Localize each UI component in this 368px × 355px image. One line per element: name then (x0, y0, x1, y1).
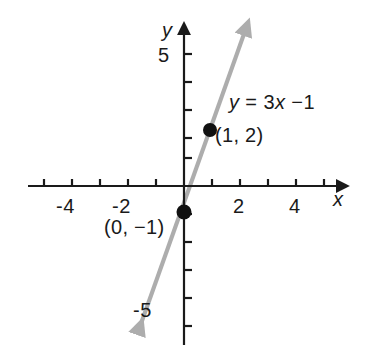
function-line-group (138, 33, 244, 332)
function-line (138, 33, 244, 332)
x-tick-label-4: 4 (289, 196, 301, 216)
y-tick-label-neg5: -5 (133, 300, 152, 320)
point-marker-0-neg1 (177, 205, 192, 220)
equation-relation: = 3 (239, 91, 275, 113)
y-axis-label: y (162, 20, 172, 40)
x-axis-label: x (333, 189, 343, 209)
x-tick-label-neg2: -2 (112, 196, 131, 216)
equation-lhs: y (229, 91, 239, 113)
equation-rhs: −1 (285, 91, 315, 113)
y-tick-label-5: 5 (158, 45, 170, 65)
point-label-0-neg1: (0, −1) (104, 217, 164, 237)
graph-figure: y x 5 -5 -4 -2 2 4 y = 3x −1 (1, 2) (0, … (0, 0, 368, 355)
x-tick-label-neg4: -4 (56, 196, 75, 216)
coordinate-plane-svg (0, 0, 368, 355)
equation-label: y = 3x −1 (229, 92, 315, 112)
point-label-1-2: (1, 2) (215, 125, 263, 145)
equation-variable: x (275, 91, 285, 113)
x-tick-label-2: 2 (233, 196, 245, 216)
